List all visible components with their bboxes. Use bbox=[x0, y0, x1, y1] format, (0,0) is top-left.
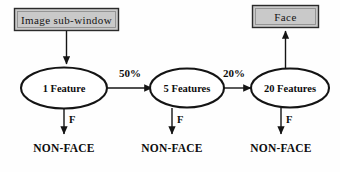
stage-3-reject-label: NON-FACE bbox=[250, 142, 312, 154]
stage-1-reject-label: NON-FACE bbox=[33, 142, 95, 154]
input-box: Image sub-window bbox=[15, 9, 119, 31]
stage-node-3: 20 Features bbox=[251, 69, 329, 108]
stage-3-fail-label: F bbox=[286, 114, 292, 125]
input-box-label: Image sub-window bbox=[21, 14, 112, 26]
stage-1-fail-label: F bbox=[69, 114, 75, 125]
stage-node-2: 5 Features bbox=[150, 69, 224, 108]
cascade-diagram: Image sub-window Face 1 Feature 50% 5 Fe… bbox=[0, 0, 340, 172]
stage-node-1: 1 Feature bbox=[21, 68, 107, 109]
transition-2-rate-label: 20% bbox=[223, 67, 245, 79]
transition-1-rate-label: 50% bbox=[119, 67, 141, 79]
cascade-diagram-canvas: Image sub-window Face 1 Feature 50% 5 Fe… bbox=[0, 0, 340, 172]
stage-3-label: 20 Features bbox=[264, 83, 316, 94]
reject-branch-1: F NON-FACE bbox=[33, 109, 95, 154]
stage-2-reject-label: NON-FACE bbox=[141, 142, 203, 154]
output-box: Face bbox=[253, 6, 319, 28]
output-box-label: Face bbox=[274, 11, 296, 23]
transition-2: 20% bbox=[223, 67, 251, 88]
reject-branch-2: F NON-FACE bbox=[141, 108, 203, 154]
transition-1: 50% bbox=[108, 67, 152, 88]
reject-branch-3: F NON-FACE bbox=[250, 108, 312, 154]
stage-2-fail-label: F bbox=[177, 114, 183, 125]
stage-2-label: 5 Features bbox=[164, 83, 211, 94]
stage-1-label: 1 Feature bbox=[43, 83, 86, 94]
